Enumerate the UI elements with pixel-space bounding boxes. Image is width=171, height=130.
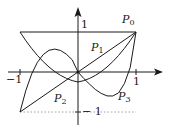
label-p3: P3 [118, 91, 131, 104]
x-label-neg1: −1 [6, 74, 22, 85]
x-label-pos1: 1 [133, 76, 140, 87]
label-p2: P2 [54, 93, 67, 106]
y-label-pos1: 1 [81, 19, 88, 30]
y-label-neg1: − 1 [82, 106, 102, 117]
origin-point [76, 70, 79, 73]
label-p0: P0 [122, 14, 135, 27]
legendre-polynomials-diagram: −1 1 1 − 1 P0 P1 P2 P3 [0, 0, 171, 130]
label-p1: P1 [91, 42, 104, 55]
